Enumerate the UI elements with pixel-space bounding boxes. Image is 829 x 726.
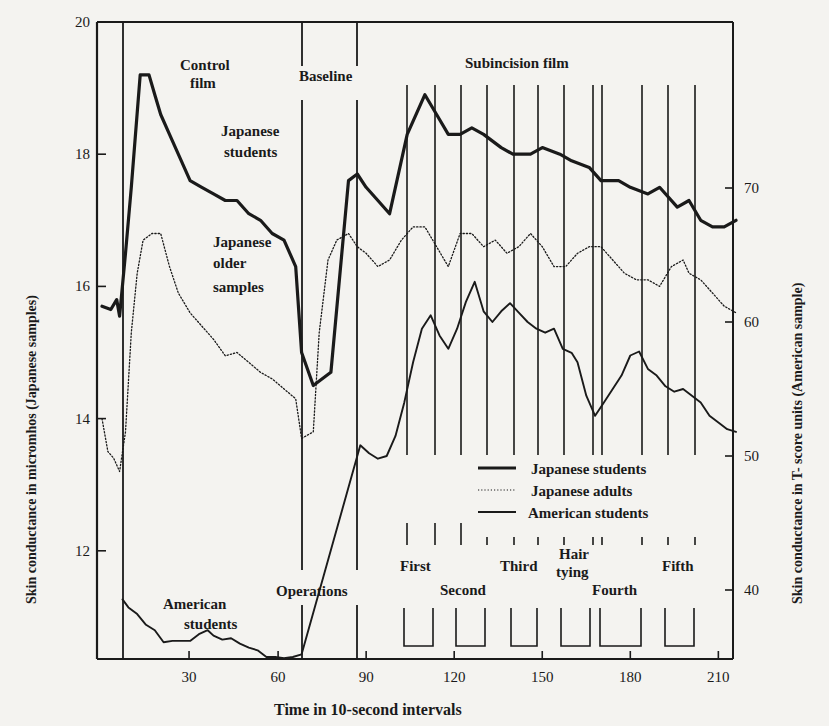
phase-marker-lines (123, 22, 357, 659)
annotation-control-film: Control (180, 57, 230, 73)
scene-bracket (404, 608, 433, 646)
x-axis-tick-label: 90 (359, 669, 374, 685)
left-axis-tick-label: 20 (75, 14, 90, 30)
left-axis-tick-label: 18 (75, 146, 90, 162)
legend-label-american-students: American students (528, 505, 649, 521)
x-axis-title: Time in 10-second intervals (274, 701, 462, 718)
annotation-fourth: Fourth (592, 582, 638, 598)
annotation-third: Third (500, 558, 538, 574)
scene-bracket (511, 608, 537, 646)
scene-bracket (665, 608, 694, 646)
annotation-japanese-students: students (224, 144, 278, 160)
annotation-japanese-older: samples (213, 279, 264, 295)
x-axis-tick-label: 60 (271, 669, 286, 685)
left-axis-tick-label: 12 (75, 543, 90, 559)
x-axis-tick-label: 150 (531, 669, 554, 685)
annotation-japanese-older: Japanese (213, 234, 272, 250)
right-axis-tick-label: 50 (744, 448, 759, 464)
left-y-axis: 1214161820 (75, 14, 106, 559)
annotation-baseline: Baseline (299, 68, 353, 84)
annotation-hair-tying: tying (556, 564, 589, 580)
scene-brackets (404, 608, 694, 646)
annotation-american-students: students (184, 616, 238, 632)
right-axis-tick-label: 40 (744, 582, 759, 598)
annotation-japanese-older: older (213, 255, 247, 271)
scene-bracket (561, 608, 590, 646)
left-axis-tick-label: 16 (75, 278, 91, 294)
annotation-american-students: American (163, 596, 227, 612)
right-axis-tick-label: 60 (744, 314, 759, 330)
series-japanese-adults (102, 227, 736, 472)
annotation-subincision-film: Subincision film (465, 55, 569, 71)
annotation-hair-tying: Hair (559, 546, 589, 562)
x-axis-tick-label: 210 (707, 669, 730, 685)
annotation-first: First (400, 558, 431, 574)
right-axis-title: Skin conductance in T- score units (Amer… (790, 282, 806, 604)
x-axis-tick-label: 180 (619, 669, 642, 685)
left-axis-tick-label: 14 (75, 411, 91, 427)
right-axis-tick-label: 70 (744, 180, 759, 196)
x-axis-tick-label: 120 (443, 669, 466, 685)
annotations: Control film Japanese students Japanese … (163, 55, 694, 632)
annotation-operations: Operations (276, 583, 348, 599)
legend-label-japanese-students: Japanese students (531, 461, 647, 477)
annotation-second: Second (440, 582, 487, 598)
annotation-control-film: film (190, 75, 216, 91)
scene-bracket (456, 608, 485, 646)
right-y-axis: 40506070 (725, 180, 759, 598)
legend-label-japanese-adults: Japanese adults (531, 483, 632, 499)
scene-bracket (600, 608, 641, 646)
annotation-japanese-students: Japanese (221, 123, 280, 139)
annotation-fifth: Fifth (662, 558, 694, 574)
legend: Japanese students Japanese adults Americ… (472, 455, 702, 537)
left-axis-title: Skin conductance in micromhos (Japanese … (24, 295, 40, 604)
x-axis-tick-label: 30 (182, 669, 197, 685)
chart: 1214161820 40506070 306090120150180210 S… (0, 0, 829, 726)
